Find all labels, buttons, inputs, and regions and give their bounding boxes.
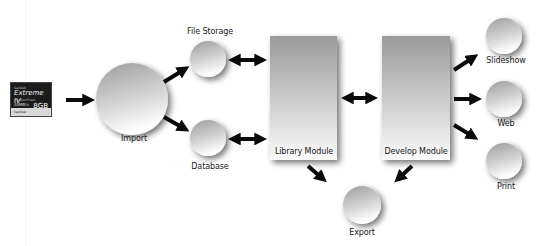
node-print xyxy=(486,143,522,179)
label-database: Database xyxy=(191,162,228,171)
label-develop-module: Develop Module xyxy=(384,147,447,156)
node-web xyxy=(486,81,522,117)
label-slideshow: Slideshow xyxy=(486,56,525,65)
arrow-import-to-file-storage xyxy=(164,69,185,82)
card-speed: 40MB/s xyxy=(14,102,29,107)
node-develop-module xyxy=(382,36,450,160)
label-print: Print xyxy=(497,182,515,191)
memory-card-image: SanDisk Extreme IV CompactFlash 40MB/s 8… xyxy=(10,82,52,117)
node-file-storage xyxy=(190,41,226,77)
arrow-develop-to-export xyxy=(398,166,412,179)
arrow-develop-to-print xyxy=(454,125,474,137)
arrow-import-to-database xyxy=(164,117,185,129)
node-export xyxy=(343,186,381,224)
node-slideshow xyxy=(486,18,522,54)
label-web: Web xyxy=(497,119,514,128)
arrow-develop-to-slideshow xyxy=(454,57,474,70)
label-export: Export xyxy=(349,228,375,237)
node-database xyxy=(190,120,226,156)
node-library-module xyxy=(270,36,337,160)
label-file-storage: File Storage xyxy=(187,27,233,36)
label-library-module: Library Module xyxy=(275,147,333,156)
card-stripe-text: SanDisk xyxy=(14,110,26,114)
node-import xyxy=(96,63,168,135)
workflow-diagram xyxy=(0,0,544,246)
label-import: Import xyxy=(121,134,147,143)
arrow-library-to-export xyxy=(308,166,323,179)
